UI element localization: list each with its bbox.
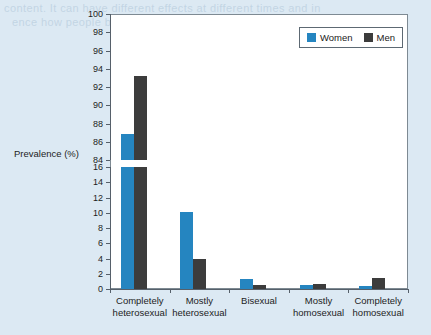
y-tick-mark — [106, 182, 110, 183]
x-axis-label-line: Completely — [113, 295, 167, 307]
x-tick-mark — [289, 289, 290, 293]
bar-women-1 — [180, 212, 193, 289]
y-axis-spine-lower — [110, 167, 111, 289]
y-tick-label: 4 — [98, 254, 103, 264]
bar-men-0 — [134, 167, 147, 289]
legend: Women Men — [299, 27, 403, 48]
x-axis-label-line: heterosexual — [113, 307, 167, 319]
x-axis-label-line: heterosexual — [172, 307, 226, 319]
x-axis-label-line: Completely — [353, 295, 404, 307]
y-tick-mark — [106, 228, 110, 229]
y-tick-label: 92 — [93, 82, 103, 92]
y-tick-mark — [106, 160, 110, 161]
y-tick-label: 86 — [93, 137, 103, 147]
y-tick-label: 6 — [98, 238, 103, 248]
x-tick-mark — [110, 289, 111, 293]
legend-swatch-men-icon — [364, 33, 373, 42]
x-tick-mark — [229, 289, 230, 293]
y-tick-label: 100 — [88, 9, 103, 19]
y-tick-mark — [106, 69, 110, 70]
y-tick-mark — [106, 259, 110, 260]
legend-swatch-women-icon — [307, 33, 316, 42]
y-tick-mark — [106, 142, 110, 143]
x-axis-label-1: Mostlyheterosexual — [172, 295, 226, 319]
y-tick-mark — [106, 32, 110, 33]
bar-men-0-upper — [134, 76, 147, 160]
y-tick-label: 88 — [93, 119, 103, 129]
y-tick-label: 0 — [98, 284, 103, 294]
y-tick-mark — [106, 87, 110, 88]
bleed-through-text-line-1: content. It can have different effects a… — [4, 2, 321, 14]
x-axis-label-4: Completelyhomosexual — [353, 295, 404, 319]
y-tick-label: 2 — [98, 269, 103, 279]
y-tick-mark — [106, 198, 110, 199]
legend-item-women: Women — [307, 32, 353, 43]
axis-break — [111, 160, 407, 168]
y-tick-label: 16 — [93, 162, 103, 172]
y-tick-label: 10 — [93, 208, 103, 218]
x-axis-label-0: Completelyheterosexual — [113, 295, 167, 319]
x-axis-label-line: homosexual — [293, 307, 344, 319]
legend-label-women: Women — [320, 32, 353, 43]
x-tick-mark — [408, 289, 409, 293]
y-tick-mark — [106, 167, 110, 168]
y-tick-mark — [106, 105, 110, 106]
lower-axis-panel — [111, 168, 407, 289]
y-tick-label: 8 — [98, 223, 103, 233]
x-axis-label-line: Bisexual — [241, 295, 277, 307]
y-tick-label: 94 — [93, 64, 103, 74]
y-tick-label: 14 — [93, 177, 103, 187]
bar-men-1 — [193, 259, 206, 289]
y-tick-label: 96 — [93, 46, 103, 56]
bar-men-4 — [372, 278, 385, 289]
bar-women-0-upper — [121, 134, 134, 160]
y-tick-mark — [106, 213, 110, 214]
y-tick-mark — [106, 274, 110, 275]
x-tick-mark — [348, 289, 349, 293]
figure: content. It can have different effects a… — [0, 0, 431, 335]
y-tick-label: 90 — [93, 100, 103, 110]
y-tick-mark — [106, 14, 110, 15]
x-axis-label-line: Mostly — [172, 295, 226, 307]
bar-women-0 — [121, 167, 134, 289]
x-axis-label-3: Mostlyhomosexual — [293, 295, 344, 319]
y-tick-mark — [106, 243, 110, 244]
x-axis-line — [110, 289, 408, 290]
x-axis-label-line: homosexual — [353, 307, 404, 319]
legend-label-men: Men — [377, 32, 395, 43]
y-tick-label: 98 — [93, 27, 103, 37]
y-tick-label: 12 — [93, 193, 103, 203]
x-tick-mark — [170, 289, 171, 293]
y-axis-label: Prevalence (%) — [14, 148, 79, 159]
y-tick-mark — [106, 51, 110, 52]
legend-item-men: Men — [364, 32, 395, 43]
plot-area — [110, 14, 408, 289]
y-tick-mark — [106, 124, 110, 125]
y-axis-spine-upper — [110, 14, 111, 160]
x-axis-label-line: Mostly — [293, 295, 344, 307]
bar-women-2 — [240, 279, 253, 289]
x-axis-label-2: Bisexual — [241, 295, 277, 307]
